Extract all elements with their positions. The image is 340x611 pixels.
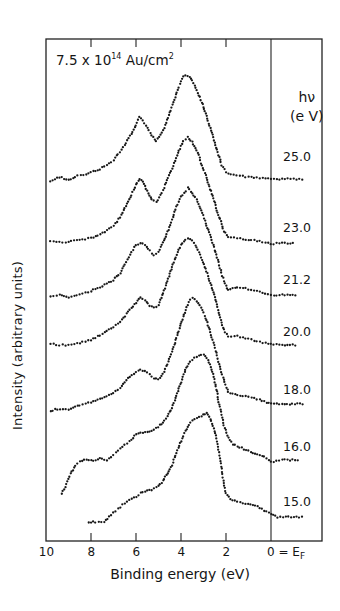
photoemission-spectra-chart (0, 0, 340, 611)
x-tick-label: 0 = EF (267, 545, 305, 561)
photon-energy-label: 16.0 (283, 439, 311, 454)
x-tick-label: 2 (222, 545, 230, 559)
spectrum-curve-16-0 (61, 353, 299, 495)
photon-energy-label: 18.0 (283, 382, 311, 397)
x-axis-label: Binding energy (eV) (0, 566, 340, 582)
coverage-annotation: 7.5 x 1014 Au/cm2 (56, 52, 174, 68)
photon-energy-legend-title: hν (e V) (290, 88, 324, 126)
plot-frame (46, 39, 322, 541)
x-tick-label: 10 (39, 545, 54, 559)
spectra-curves (49, 74, 304, 524)
photon-energy-label: 15.0 (283, 494, 311, 509)
photon-energy-label: 23.0 (283, 220, 311, 235)
legend-title-line2: (e V) (290, 107, 324, 126)
spectrum-curve-25-0 (49, 74, 303, 182)
spectrum-curve-21-2 (49, 186, 296, 299)
spectrum-curve-23-0 (49, 136, 294, 246)
photon-energy-label: 25.0 (283, 149, 311, 164)
x-tick-label: 4 (177, 545, 185, 559)
photon-energy-label: 21.2 (283, 272, 311, 287)
x-tick-label: 6 (132, 545, 140, 559)
legend-title-line1: hν (290, 88, 324, 107)
y-axis-label: Intensity (arbitrary units) (10, 261, 25, 430)
x-tick-label: 8 (87, 545, 95, 559)
photon-energy-label: 20.0 (283, 324, 311, 339)
